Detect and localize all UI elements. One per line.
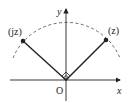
point-z <box>104 38 109 43</box>
label-y-axis: y <box>56 6 62 17</box>
point-jz <box>21 39 26 44</box>
label-z: (z) <box>108 25 119 37</box>
label-jz: (jz) <box>8 26 22 38</box>
label-x-axis: x <box>116 85 122 96</box>
vector-z <box>66 40 106 80</box>
complex-plane-diagram: (jz) (z) O x y <box>0 0 128 103</box>
label-origin: O <box>56 85 63 96</box>
vector-jz <box>23 41 66 80</box>
